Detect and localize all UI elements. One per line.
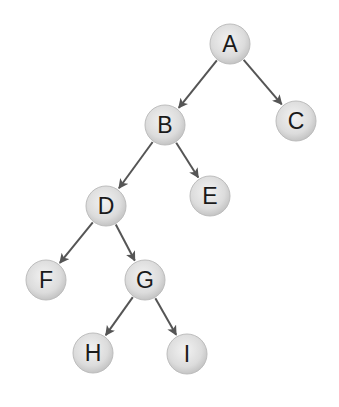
node-a: A (210, 24, 250, 64)
node-label: D (98, 193, 115, 219)
edge-d-f (60, 222, 93, 263)
node-label: I (184, 341, 190, 367)
node-c: C (276, 101, 316, 141)
node-label: E (202, 183, 217, 209)
node-i: I (167, 334, 207, 374)
node-g: G (125, 260, 165, 300)
edge-a-b (179, 60, 217, 107)
node-label: C (288, 108, 305, 134)
edge-b-d (119, 142, 153, 188)
node-h: H (73, 333, 113, 373)
tree-diagram: ABCDEFGHI (0, 0, 339, 407)
node-label: F (39, 267, 53, 293)
nodes-layer: ABCDEFGHI (26, 24, 316, 374)
edge-g-h (106, 297, 133, 335)
node-label: H (85, 340, 102, 366)
node-e: E (190, 176, 230, 216)
node-label: G (136, 267, 154, 293)
edge-b-e (176, 143, 198, 178)
edge-a-c (244, 60, 282, 104)
node-label: A (222, 31, 238, 57)
node-f: F (26, 260, 66, 300)
node-d: D (86, 186, 126, 226)
node-label: B (157, 112, 172, 138)
edge-d-g (116, 225, 135, 261)
edge-g-i (155, 298, 176, 335)
node-b: B (145, 105, 185, 145)
